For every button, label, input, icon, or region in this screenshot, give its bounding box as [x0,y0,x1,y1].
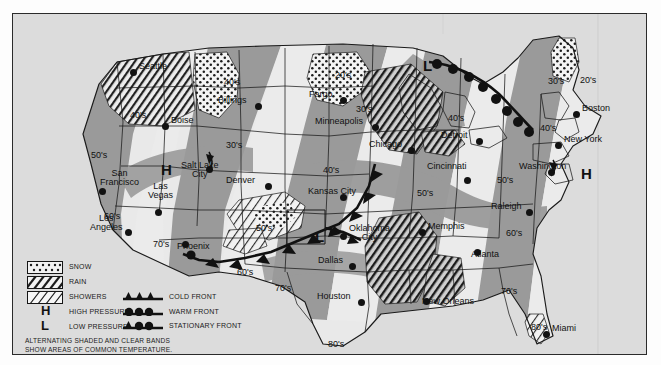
legend-swatch-warm-front [123,305,163,316]
legend-label-warm-front: WARM FRONT [169,308,219,315]
legend-label-rain: RAIN [69,278,87,285]
legend-swatch-rain [27,276,63,289]
city-dot [543,331,550,338]
city-dot [349,263,356,270]
legend-label-stationary-front: STATIONARY FRONT [169,322,242,329]
city-dot [573,111,580,118]
city-dot [125,229,132,236]
legend-label-cold-front: COLD FRONT [169,293,217,300]
city-dot [548,169,555,176]
city-dot [526,209,533,216]
city-dot [476,138,483,145]
city-dot [358,299,365,306]
city-dot [340,194,347,201]
city-dot [555,142,562,149]
city-dot [419,229,426,236]
legend-note-line-2: SHOW AREAS OF COMMON TEMPERATURE. [25,345,172,355]
legend-label-high-pressure: HIGH PRESSURE [69,308,130,315]
city-dot [182,241,189,248]
city-dot [423,298,430,305]
city-dot [155,209,162,216]
us-weather-map-svg [13,14,646,354]
city-dot [372,124,379,131]
city-dot [408,147,415,154]
legend-label-showers: SHOWERS [69,293,107,300]
city-dot [162,123,169,130]
city-dot [265,183,272,190]
city-dot [130,69,137,76]
legend-swatch-stationary-front [123,319,163,331]
city-dot [340,233,347,240]
legend-symbol-high-pressure: H [41,303,50,318]
legend-swatch-cold-front [123,291,163,302]
city-dot [340,97,347,104]
legend-label-low-pressure: LOW PRESSURE [69,323,128,330]
legend-label-snow: SNOW [69,263,92,270]
city-dot [474,249,481,256]
legend-swatch-snow [27,261,63,274]
city-dot [464,177,471,184]
legend-symbol-low-pressure: L [41,318,49,333]
city-dot [206,166,213,173]
weather-map-screenshot: SeattleBoiseBillingsSanFranciscoLasVegas… [0,0,661,365]
map-frame: SeattleBoiseBillingsSanFranciscoLasVegas… [12,13,647,355]
city-dot [99,188,106,195]
city-dot [255,103,262,110]
